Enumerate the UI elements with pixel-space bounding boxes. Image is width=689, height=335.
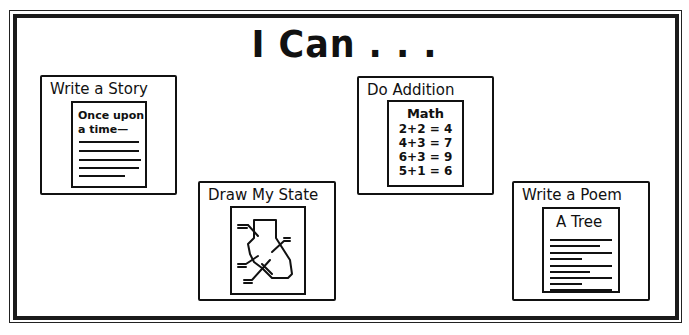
text-line: [79, 150, 139, 152]
text-line: [550, 289, 612, 291]
text-line: [550, 277, 612, 279]
card-label: Write a Poem: [522, 186, 622, 204]
text-line: [550, 239, 612, 241]
card-do-addition: Do Addition Math 2+2 = 4 4+3 = 7 6+3 = 9…: [357, 76, 494, 195]
text-line: [79, 141, 139, 143]
card-write-a-poem: Write a Poem A Tree: [512, 181, 650, 301]
equation: 2+2 = 4: [389, 122, 462, 136]
text-line: [79, 175, 125, 177]
text-line: [550, 271, 590, 273]
map-paper: [230, 206, 306, 295]
text-line: [550, 252, 612, 254]
story-paper: Once upon a time—: [71, 101, 147, 188]
poem-heading: A Tree: [556, 215, 602, 230]
story-heading-line2: a time—: [78, 124, 128, 135]
text-line: [550, 283, 582, 285]
text-line: [79, 159, 141, 161]
card-draw-my-state: Draw My State: [198, 181, 336, 301]
math-paper: Math 2+2 = 4 4+3 = 7 6+3 = 9 5+1 = 6: [387, 100, 464, 187]
math-heading: Math: [389, 107, 462, 121]
card-write-a-story: Write a Story Once upon a time—: [40, 75, 177, 195]
text-line: [550, 265, 612, 267]
story-heading-line1: Once upon: [78, 110, 144, 121]
state-map-icon: [232, 208, 304, 293]
text-line: [79, 167, 139, 169]
text-line: [550, 258, 582, 260]
text-line: [550, 245, 600, 247]
equation: 4+3 = 7: [389, 136, 462, 150]
card-label: Draw My State: [208, 186, 318, 204]
card-label: Write a Story: [50, 80, 148, 98]
card-label: Do Addition: [367, 81, 454, 99]
equation: 6+3 = 9: [389, 150, 462, 164]
poem-paper: A Tree: [542, 207, 620, 293]
page-title: I Can . . .: [28, 22, 662, 66]
equation: 5+1 = 6: [389, 164, 462, 178]
